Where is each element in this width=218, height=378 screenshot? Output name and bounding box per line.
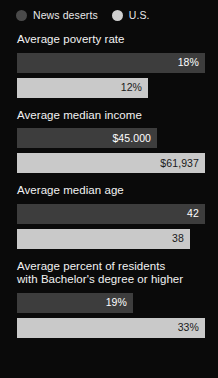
bar-news-deserts: 42: [17, 204, 205, 224]
bar-value: 12%: [121, 82, 148, 93]
bar-value: $45.000: [112, 133, 157, 144]
bar-value: 42: [187, 208, 205, 219]
bar-row: 38: [17, 229, 205, 249]
bar-row: 33%: [17, 318, 205, 338]
bar-us: 38: [17, 229, 190, 249]
bar-group: 18% 12%: [17, 53, 205, 98]
chart-section-median-age: Average median age 42 38: [0, 184, 218, 249]
bar-row: 19%: [17, 293, 205, 313]
legend-item-news-deserts: News deserts: [16, 10, 98, 21]
section-title: Average percent of residents with Bachel…: [17, 260, 205, 287]
section-title: Average poverty rate: [17, 33, 205, 47]
bar-news-deserts: 18%: [17, 53, 205, 73]
circle-icon: [16, 10, 27, 21]
bar-value: 19%: [106, 297, 133, 308]
legend-label: U.S.: [129, 10, 150, 21]
comparison-bar-chart: News deserts U.S. Average poverty rate 1…: [0, 0, 218, 378]
bar-us: $61,937: [17, 153, 205, 173]
bar-row: $61,937: [17, 153, 205, 173]
bar-group: 19% 33%: [17, 293, 205, 338]
bar-value: 18%: [178, 57, 205, 68]
legend-item-us: U.S.: [112, 10, 150, 21]
bar-row: 12%: [17, 78, 205, 98]
section-title: Average median age: [17, 184, 205, 198]
bar-row: 18%: [17, 53, 205, 73]
legend-label: News deserts: [33, 10, 98, 21]
bar-row: 42: [17, 204, 205, 224]
bar-value: 38: [172, 233, 190, 244]
bar-us: 12%: [17, 78, 148, 98]
chart-legend: News deserts U.S.: [0, 0, 218, 22]
chart-section-poverty-rate: Average poverty rate 18% 12%: [0, 33, 218, 98]
section-title: Average median income: [17, 109, 205, 123]
bar-group: $45.000 $61,937: [17, 128, 205, 173]
bar-news-deserts: $45.000: [17, 128, 157, 148]
circle-icon: [112, 10, 123, 21]
bar-row: $45.000: [17, 128, 205, 148]
bar-news-deserts: 19%: [17, 293, 133, 313]
chart-section-bachelors-degree: Average percent of residents with Bachel…: [0, 260, 218, 338]
bar-group: 42 38: [17, 204, 205, 249]
chart-section-median-income: Average median income $45.000 $61,937: [0, 109, 218, 174]
bar-value: 33%: [178, 322, 205, 333]
bar-value: $61,937: [160, 158, 205, 169]
bar-us: 33%: [17, 318, 205, 338]
